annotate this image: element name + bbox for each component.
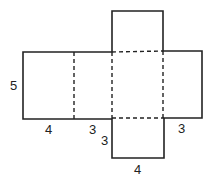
- label-bottom-side: 3: [101, 133, 108, 148]
- label-bottom-width: 4: [134, 162, 141, 177]
- prism-net-diagram: 5 4 3 3 3 4: [0, 0, 215, 182]
- label-right-width: 3: [178, 121, 185, 136]
- fold-line-top: [112, 51, 163, 52]
- label-left-width: 4: [45, 122, 52, 137]
- label-middle-width: 3: [89, 122, 96, 137]
- label-left-height: 5: [10, 78, 17, 93]
